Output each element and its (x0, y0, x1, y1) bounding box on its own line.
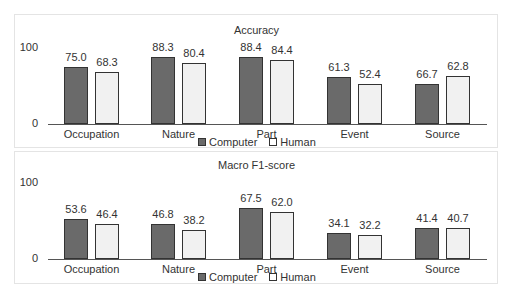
f1-value-label: 38.2 (174, 214, 214, 226)
accuracy-bar-part-human (270, 60, 294, 124)
computer-swatch-icon (198, 138, 206, 146)
accuracy-value-label: 68.3 (87, 56, 127, 68)
accuracy-ytick-0: 0 (8, 117, 38, 129)
accuracy-bar-nature-computer (151, 57, 175, 124)
accuracy-bar-occupation-human (95, 72, 119, 124)
legend-label-human: Human (280, 271, 315, 283)
legend-item-human: Human (269, 271, 315, 283)
accuracy-bar-source-computer (415, 84, 439, 124)
f1-ytick-0: 0 (8, 252, 38, 264)
accuracy-bar-occupation-computer (64, 67, 88, 124)
accuracy-legend: Computer Human (198, 136, 328, 148)
human-swatch-icon (269, 273, 277, 281)
f1-bar-nature-human (182, 230, 206, 259)
legend-label-human: Human (280, 136, 315, 148)
f1-bar-source-human (446, 228, 470, 259)
f1-value-label: 32.2 (350, 219, 390, 231)
f1-bar-nature-computer (151, 224, 175, 259)
human-swatch-icon (269, 138, 277, 146)
f1-bar-part-computer (239, 208, 263, 259)
accuracy-value-label: 62.8 (438, 60, 478, 72)
f1-bar-occupation-computer (64, 219, 88, 259)
f1-ytick-100: 100 (8, 176, 38, 188)
legend-item-human: Human (269, 136, 315, 148)
f1-x-axis (48, 259, 487, 260)
accuracy-chart-title: Accuracy (0, 24, 513, 36)
f1-bar-part-human (270, 212, 294, 259)
f1-bar-event-computer (327, 233, 351, 259)
accuracy-bar-source-human (446, 76, 470, 124)
accuracy-bar-nature-human (182, 63, 206, 124)
legend-label-computer: Computer (209, 136, 257, 148)
f1-bar-source-computer (415, 228, 439, 259)
f1-chart-title: Macro F1-score (0, 159, 513, 171)
legend-item-computer: Computer (198, 136, 257, 148)
f1-bar-event-human (358, 235, 382, 259)
accuracy-ytick-100: 100 (8, 41, 38, 53)
accuracy-bar-part-computer (239, 57, 263, 124)
legend-item-computer: Computer (198, 271, 257, 283)
accuracy-value-label: 84.4 (262, 44, 302, 56)
accuracy-value-label: 80.4 (174, 47, 214, 59)
f1-category-label: Occupation (52, 263, 132, 275)
accuracy-value-label: 52.4 (350, 68, 390, 80)
accuracy-x-axis (48, 124, 487, 125)
legend-label-computer: Computer (209, 271, 257, 283)
f1-value-label: 40.7 (438, 212, 478, 224)
f1-bar-occupation-human (95, 224, 119, 259)
accuracy-bar-event-computer (327, 77, 351, 124)
computer-swatch-icon (198, 273, 206, 281)
f1-legend: Computer Human (198, 271, 328, 283)
f1-category-label: Source (403, 263, 483, 275)
f1-value-label: 62.0 (262, 196, 302, 208)
f1-value-label: 46.4 (87, 208, 127, 220)
accuracy-category-label: Occupation (52, 128, 132, 140)
accuracy-bar-event-human (358, 84, 382, 124)
accuracy-category-label: Source (403, 128, 483, 140)
